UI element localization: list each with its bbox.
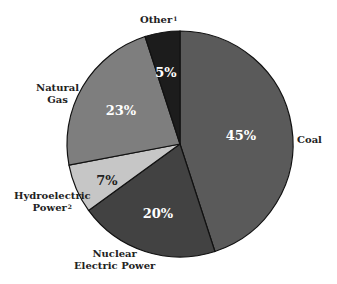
- label-nuclear: Nuclear Electric Power: [74, 248, 155, 272]
- label-natural-gas-line1: Natural: [36, 82, 79, 94]
- label-natural-gas-line2: Gas: [36, 94, 79, 106]
- label-coal-text: Coal: [297, 134, 322, 145]
- pct-nuclear: 20%: [143, 207, 173, 221]
- pct-hydro: 7%: [96, 174, 117, 188]
- label-hydro-line2: Power: [33, 202, 67, 213]
- footnote-2: 2: [68, 203, 72, 210]
- pct-natural-gas: 23%: [106, 104, 136, 118]
- label-hydroelectric: Hydroelectric Power2: [14, 190, 91, 214]
- label-other: Other1: [140, 14, 177, 26]
- label-nuclear-line1: Nuclear: [74, 248, 155, 260]
- label-coal: Coal: [297, 134, 322, 146]
- pct-coal: 45%: [226, 129, 256, 143]
- label-hydro-line1: Hydroelectric: [14, 190, 91, 202]
- label-nuclear-line2: Electric Power: [74, 260, 155, 272]
- label-other-text: Other: [140, 14, 172, 25]
- pct-other: 5%: [155, 66, 176, 80]
- label-natural-gas: Natural Gas: [36, 82, 79, 106]
- footnote-1: 1: [173, 15, 177, 22]
- pie-slices: [67, 31, 293, 257]
- pie-chart: [0, 0, 337, 284]
